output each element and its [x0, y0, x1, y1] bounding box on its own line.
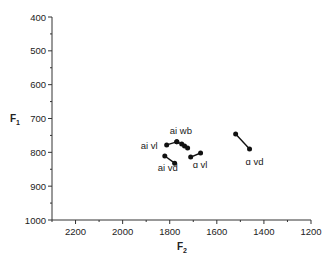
x-tick-label: 1800 [159, 226, 180, 237]
series-label: ai wb [170, 125, 192, 136]
series-a-vl: ɑ vl [188, 151, 207, 171]
data-point [233, 132, 238, 137]
data-point [174, 139, 179, 144]
y-tick-label: 800 [30, 147, 46, 158]
x-tick-label: 2200 [65, 226, 86, 237]
series-a-vd: ɑ vd [233, 132, 263, 167]
series-ai-vl: ai vl [141, 139, 180, 151]
data-point [247, 146, 252, 151]
series-line [236, 134, 250, 149]
plot-area: ai vlai wbai vdɑ vlɑ vd [141, 125, 264, 173]
chart-svg: 4005006007008009001000220020001800160014… [0, 0, 333, 265]
series-label: ai vl [141, 140, 158, 151]
y-tick-label: 1000 [25, 215, 46, 226]
data-point [162, 154, 167, 159]
series-ai-wb: ai wb [170, 125, 192, 151]
series-ai-vd: ai vd [158, 154, 178, 174]
series-label: ɑ vd [246, 156, 264, 167]
formant-chart: 4005006007008009001000220020001800160014… [0, 0, 333, 265]
data-point [198, 151, 203, 156]
series-label: ai vd [158, 162, 178, 173]
data-point [164, 142, 169, 147]
x-tick-label: 2000 [112, 226, 133, 237]
y-tick-label: 600 [30, 79, 46, 90]
x-axis-label: F2 [177, 241, 187, 254]
y-tick-label: 400 [30, 12, 46, 23]
series-label: ɑ vl [193, 159, 208, 170]
y-tick-label: 900 [30, 181, 46, 192]
x-tick-label: 1200 [300, 226, 321, 237]
y-tick-label: 700 [30, 113, 46, 124]
x-tick-label: 1400 [253, 226, 274, 237]
x-tick-label: 1600 [206, 226, 227, 237]
y-tick-label: 500 [30, 45, 46, 56]
data-point [185, 145, 190, 150]
y-axis-label: F1 [10, 113, 20, 126]
